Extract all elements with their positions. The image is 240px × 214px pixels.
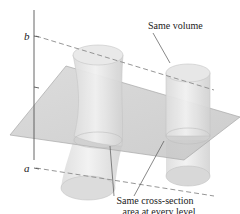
right-solid-top	[166, 64, 210, 82]
label-a: a	[24, 162, 30, 174]
volume-leader-line	[153, 33, 170, 63]
volume-annotation: Same volume	[148, 20, 203, 31]
left-solid-base	[61, 176, 115, 200]
cross-section-annotation-line2: area at every level	[122, 206, 195, 214]
right-solid-base	[166, 166, 210, 186]
b-tick	[34, 36, 39, 37]
cross-section-annotation-line1: Same cross-section	[117, 195, 194, 206]
cavalieri-diagram: b a Same volume Same cross-section area …	[0, 0, 240, 214]
label-b: b	[24, 30, 30, 42]
right-solid-upper	[166, 64, 210, 144]
middle-tick	[34, 87, 39, 88]
